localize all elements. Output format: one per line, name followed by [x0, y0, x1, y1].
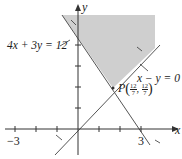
tick-label-3: 3	[138, 135, 144, 147]
x-axis-label: x	[175, 124, 180, 136]
tick-label-neg-3: −3	[7, 135, 20, 147]
point-p-label: P(127, 127)	[118, 82, 153, 96]
graph-figure: y x −3 3 4x + 3y = 12 x − y = 0 P(127, 1…	[0, 0, 182, 159]
point-p	[112, 87, 115, 90]
y-axis-label: y	[82, 1, 87, 13]
y-axis-arrow-icon	[75, 4, 81, 11]
line-label-4x-3y: 4x + 3y = 12	[7, 40, 67, 52]
